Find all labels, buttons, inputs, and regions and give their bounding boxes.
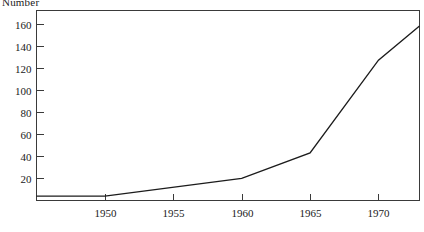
y-tick-label: 120 — [15, 63, 32, 75]
y-tick-label: 40 — [21, 151, 33, 163]
plot-frame — [37, 11, 420, 201]
y-axis-ticks: 20406080100120140160 — [15, 19, 44, 185]
chart-container: Number 20406080100120140160 195019551960… — [0, 0, 424, 232]
x-tick-label: 1970 — [368, 207, 391, 219]
line-chart-plot: 20406080100120140160 1950195519601965197… — [0, 0, 424, 232]
y-tick-label: 100 — [15, 85, 32, 97]
frame-path — [37, 11, 420, 201]
y-tick-label: 80 — [21, 107, 33, 119]
y-tick-label: 160 — [15, 19, 32, 31]
x-tick-label: 1960 — [232, 207, 255, 219]
y-tick-label: 20 — [21, 173, 33, 185]
x-axis-ticks: 19501955196019651970 — [95, 194, 391, 219]
y-tick-label: 140 — [15, 41, 32, 53]
series-line-number — [37, 26, 420, 196]
x-tick-label: 1955 — [163, 207, 186, 219]
x-tick-label: 1950 — [95, 207, 118, 219]
y-tick-label: 60 — [21, 129, 33, 141]
data-series-group — [37, 26, 420, 196]
x-tick-label: 1965 — [300, 207, 323, 219]
